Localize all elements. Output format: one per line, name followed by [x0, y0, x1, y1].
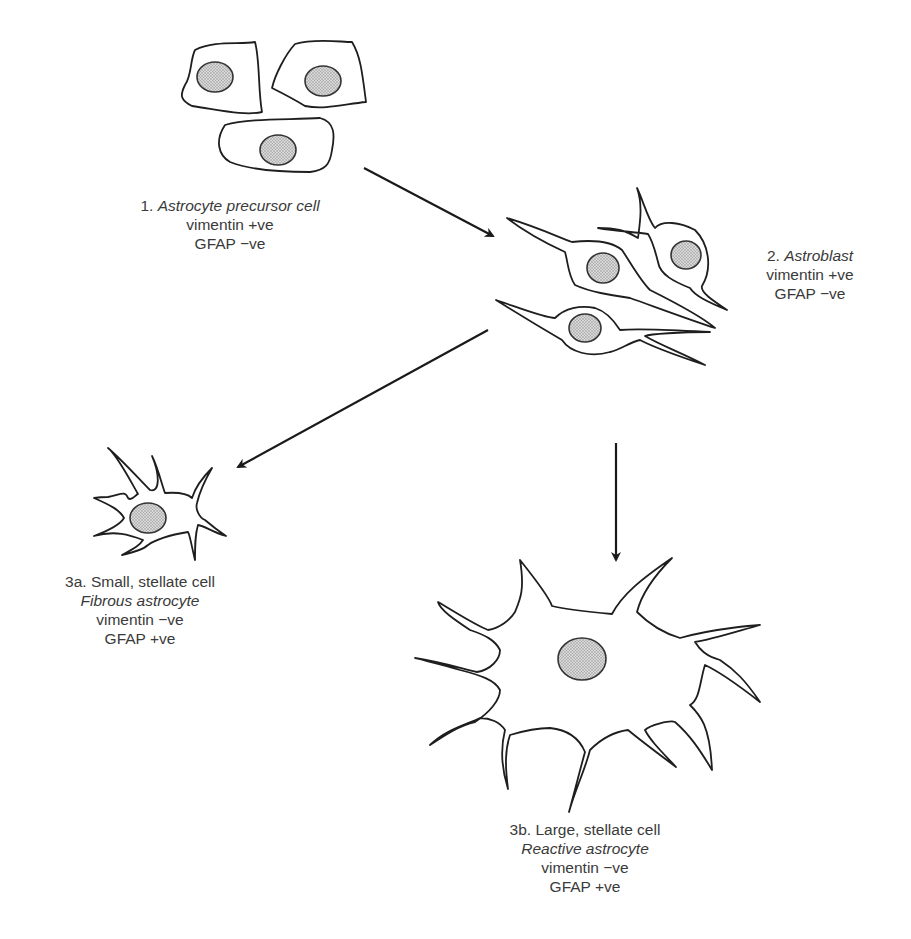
stage-name: Reactive astrocyte [460, 839, 710, 858]
vimentin-status: vimentin −ve [460, 858, 710, 877]
label-reactive-astrocyte: 3b. Large, stellate cell Reactive astroc… [460, 820, 710, 896]
diagram-canvas: 1. Astrocyte precursor cell vimentin +ve… [0, 0, 911, 939]
astroblast-cells-illustration [496, 188, 727, 365]
stage-description: 3b. Large, stellate cell [460, 820, 710, 839]
stage-name: Astrocyte precursor cell [158, 197, 320, 214]
label-astroblast: 2. Astroblast vimentin +ve GFAP −ve [745, 246, 875, 303]
gfap-status: GFAP +ve [20, 629, 260, 648]
label-astroblast-title: 2. Astroblast [745, 246, 875, 265]
fibrous-astrocyte-illustration [94, 448, 226, 560]
stage-number: 1. [140, 197, 153, 214]
gfap-status: GFAP −ve [100, 234, 360, 253]
vimentin-status: vimentin +ve [100, 215, 360, 234]
label-fibrous-astrocyte: 3a. Small, stellate cell Fibrous astrocy… [20, 572, 260, 648]
label-precursor-title: 1. Astrocyte precursor cell [100, 196, 360, 215]
arrow-2-to-3a [238, 330, 488, 467]
precursor-cells-illustration [182, 41, 366, 172]
arrow-1-to-2 [364, 168, 493, 236]
diagram-artwork [0, 0, 911, 939]
vimentin-status: vimentin +ve [745, 265, 875, 284]
stage-name: Astroblast [784, 247, 853, 264]
vimentin-status: vimentin −ve [20, 610, 260, 629]
reactive-astrocyte-illustration [415, 558, 760, 812]
stage-number: 2. [767, 247, 780, 264]
stage-name: Fibrous astrocyte [20, 591, 260, 610]
gfap-status: GFAP +ve [460, 877, 710, 896]
label-precursor-cell: 1. Astrocyte precursor cell vimentin +ve… [100, 196, 360, 253]
gfap-status: GFAP −ve [745, 284, 875, 303]
stage-description: 3a. Small, stellate cell [20, 572, 260, 591]
